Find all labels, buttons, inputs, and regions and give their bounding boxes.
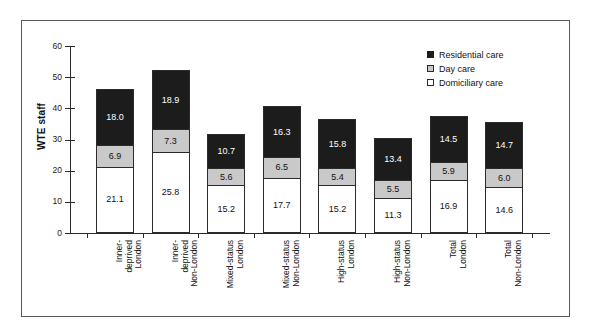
bar-value-label: 15.2	[329, 205, 347, 214]
y-axis-tick	[65, 202, 75, 203]
bar-segment-residential-care: 18.9	[152, 70, 190, 129]
y-axis-tick-label-wrap: 20	[22, 166, 62, 175]
x-axis-tick	[421, 233, 422, 238]
bar-segment-day-care: 6.0	[485, 168, 523, 187]
x-axis-label-8: Total Non-London	[504, 240, 515, 326]
bar-segment-day-care: 7.3	[152, 129, 190, 152]
bar-value-label: 6.9	[109, 152, 122, 161]
bar-segment-day-care: 5.6	[207, 168, 245, 186]
bar-value-label: 5.4	[331, 173, 344, 182]
y-axis-tick-label-wrap: 40	[22, 104, 62, 113]
bar-value-label: 11.3	[385, 211, 402, 220]
bar-segment-day-care: 5.9	[430, 162, 468, 180]
y-axis-tick-label-wrap: 10	[22, 197, 62, 206]
legend-label: Domiciliary care	[439, 78, 503, 88]
bar-value-label: 16.9	[440, 202, 458, 211]
bar-6: 11.35.513.4	[374, 138, 412, 233]
bar-segment-residential-care: 10.7	[207, 134, 245, 168]
x-axis-tick	[198, 233, 199, 238]
bar-8: 14.66.014.7	[485, 122, 523, 233]
x-axis-label-5: High-status London	[337, 240, 348, 326]
x-axis-tick	[532, 233, 533, 238]
bar-value-label: 5.9	[442, 167, 455, 176]
bar-segment-residential-care: 14.5	[430, 116, 468, 161]
x-axis-label-1: Inner- deprived London	[115, 240, 126, 326]
y-axis-tick-label-wrap: 30	[22, 135, 62, 144]
y-axis-tick-label: 60	[36, 42, 62, 51]
bar-segment-domiciliary-care: 14.6	[485, 187, 523, 233]
x-axis-tick	[476, 233, 477, 238]
y-axis-tick	[65, 171, 75, 172]
bar-segment-day-care: 6.5	[263, 157, 301, 177]
bar-value-label: 21.1	[106, 195, 124, 204]
bar-value-label: 14.5	[440, 135, 458, 144]
bar-segment-residential-care: 14.7	[485, 122, 523, 168]
y-axis-tick-label-wrap: 50	[22, 73, 62, 82]
bar-value-label: 14.7	[495, 141, 513, 150]
bar-value-label: 5.6	[220, 173, 233, 182]
x-axis-label-7: Total London	[449, 240, 460, 326]
legend-label: Residential care	[439, 50, 504, 60]
bar-4: 17.76.516.3	[263, 106, 301, 233]
bar-segment-residential-care: 16.3	[263, 106, 301, 157]
y-axis-tick-label-wrap: 0	[22, 229, 62, 238]
bar-5: 15.25.415.8	[318, 119, 356, 233]
gray-square-icon	[427, 65, 434, 72]
x-axis-tick	[309, 233, 310, 238]
bar-value-label: 14.6	[495, 206, 513, 215]
legend-item-residential-care: Residential care	[427, 49, 547, 60]
bar-value-label: 16.3	[273, 128, 291, 137]
y-axis-title: WTE staff	[36, 82, 47, 172]
bar-segment-domiciliary-care: 25.8	[152, 152, 190, 233]
bar-segment-domiciliary-care: 15.2	[207, 185, 245, 233]
y-axis-tick-label: 0	[36, 229, 62, 238]
chart-legend: Residential care Day care Domiciliary ca…	[427, 49, 547, 91]
bar-value-label: 10.7	[217, 147, 235, 156]
bar-segment-day-care: 5.4	[318, 168, 356, 185]
x-axis-label-2: Inner- deprived Non-London	[171, 240, 182, 326]
bar-segment-day-care: 6.9	[96, 145, 134, 167]
bar-segment-domiciliary-care: 16.9	[430, 180, 468, 233]
bar-1: 21.16.918.0	[96, 89, 134, 233]
y-axis-tick-label: 20	[36, 166, 62, 175]
bar-2: 25.87.318.9	[152, 70, 190, 233]
bar-value-label: 15.8	[329, 140, 347, 149]
x-axis-label-6: High-status Non-London	[393, 240, 404, 326]
chart-plot-area: WTE staff 60 50 40 30 20 10 0 2	[22, 21, 571, 318]
y-axis-tick-label: 30	[36, 135, 62, 144]
y-axis-tick	[65, 77, 75, 78]
bar-segment-domiciliary-care: 11.3	[374, 198, 412, 233]
bar-7: 16.95.914.5	[430, 116, 468, 233]
bar-value-label: 6.0	[498, 174, 511, 183]
x-axis-tick	[87, 233, 88, 238]
bar-value-label: 13.4	[384, 155, 402, 164]
bar-value-label: 25.8	[162, 188, 180, 197]
white-square-icon	[427, 79, 434, 86]
y-axis-tick-label: 40	[36, 104, 62, 113]
x-axis-tick	[143, 233, 144, 238]
bar-value-label: 18.9	[162, 96, 180, 105]
bar-segment-residential-care: 18.0	[96, 89, 134, 145]
bar-segment-domiciliary-care: 15.2	[318, 185, 356, 233]
legend-item-domiciliary-care: Domiciliary care	[427, 77, 547, 88]
y-axis-tick	[65, 108, 75, 109]
y-axis-tick-label: 10	[36, 197, 62, 206]
bar-segment-domiciliary-care: 21.1	[96, 167, 134, 233]
legend-item-day-care: Day care	[427, 63, 547, 74]
y-axis-tick	[65, 233, 75, 234]
legend-label: Day care	[439, 64, 475, 74]
bar-value-label: 18.0	[106, 113, 124, 122]
chart-figure-frame: WTE staff 60 50 40 30 20 10 0 2	[21, 20, 570, 317]
x-axis-label-4: Mixed-status Non-London	[282, 240, 293, 326]
black-square-icon	[427, 51, 434, 58]
x-axis-tick	[365, 233, 366, 238]
bar-segment-domiciliary-care: 17.7	[263, 178, 301, 233]
bar-3: 15.25.610.7	[207, 134, 245, 233]
bar-segment-residential-care: 13.4	[374, 138, 412, 180]
y-axis-tick	[65, 46, 75, 47]
bar-segment-residential-care: 15.8	[318, 119, 356, 169]
y-axis-tick	[65, 140, 75, 141]
x-axis-label-3: Mixed-status London	[226, 240, 237, 326]
bar-value-label: 15.2	[217, 205, 235, 214]
bar-segment-day-care: 5.5	[374, 180, 412, 197]
